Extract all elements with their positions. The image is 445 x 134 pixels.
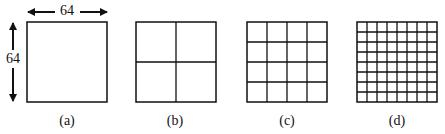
width-label: 64 [47,3,87,19]
grid-panel-b [136,22,216,102]
panel-label-a: (a) [47,113,87,129]
height-label: 64 [0,51,33,67]
panel-label-b: (b) [155,113,195,129]
grid-panel-c [247,22,327,102]
panel-label-d: (d) [377,113,417,129]
grid-panel-a [27,22,107,102]
grid-panel-d [357,22,437,102]
panel-label-c: (c) [267,113,307,129]
